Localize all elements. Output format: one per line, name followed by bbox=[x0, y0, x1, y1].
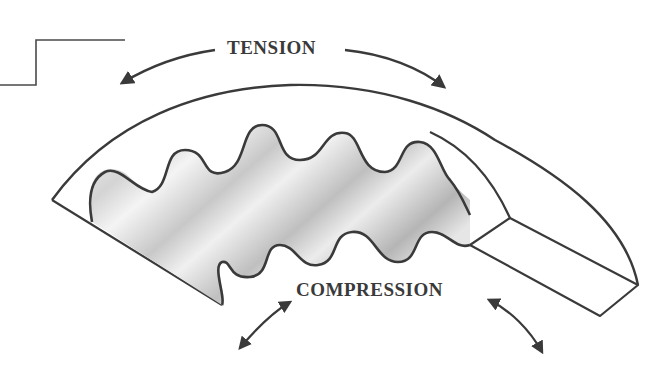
tension-arrow-right bbox=[345, 50, 444, 87]
compression-label: COMPRESSION bbox=[293, 279, 446, 301]
tension-arrow-left bbox=[122, 50, 215, 83]
compression-arrow-right bbox=[489, 300, 542, 352]
end-block bbox=[470, 218, 638, 316]
corrugated-teeth bbox=[90, 125, 470, 305]
tension-label: TENSION bbox=[224, 37, 319, 59]
belt-diagram bbox=[0, 0, 671, 378]
compression-arrow-left bbox=[240, 302, 290, 348]
compression-arrows bbox=[240, 300, 542, 352]
step-line bbox=[0, 40, 125, 85]
